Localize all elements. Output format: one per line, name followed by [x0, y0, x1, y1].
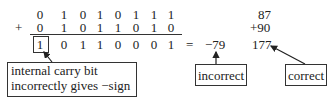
correct-label-box: correct	[285, 64, 327, 86]
callout-line-2: incorrectly gives −sign	[8, 78, 136, 93]
callout-line-1: internal carry bit	[8, 63, 136, 78]
correct-label: correct	[286, 68, 326, 83]
incorrect-label: incorrect	[196, 68, 246, 83]
carry-bit-callout: internal carry bit incorrectly gives −si…	[7, 62, 137, 97]
incorrect-label-box: incorrect	[195, 64, 247, 86]
